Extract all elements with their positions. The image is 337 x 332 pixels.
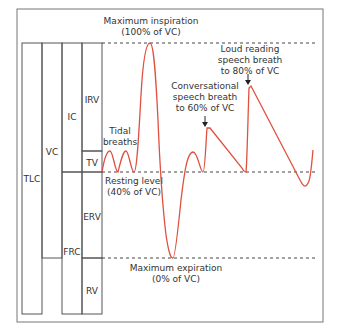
ic-label: IC bbox=[68, 112, 77, 122]
ic-box bbox=[62, 43, 82, 172]
resting-level-label-line2: (40% of VC) bbox=[107, 187, 161, 197]
max-expiration-label-line1: Maximum expiration bbox=[130, 263, 223, 273]
irv-label: IRV bbox=[85, 95, 100, 105]
arrow-down-icon bbox=[202, 122, 208, 127]
erv-label: ERV bbox=[83, 212, 101, 222]
tidal-label-line1: Tidal bbox=[108, 126, 130, 136]
tidal-label-line2: breaths bbox=[103, 137, 138, 147]
conversational-label-line2: speech breath bbox=[173, 92, 238, 102]
arrow-down-icon bbox=[245, 80, 251, 85]
max-expiration-label-line2: (0% of VC) bbox=[152, 274, 200, 284]
lung-volume-diagram: TLC VC IC FRC IRV TV ERV RV Maximum insp… bbox=[0, 0, 337, 332]
loud-label-line1: Loud reading bbox=[221, 44, 280, 54]
conversational-label-line1: Conversational bbox=[171, 81, 239, 91]
conversational-label-line3: to 60% of VC bbox=[176, 103, 235, 113]
resting-level-label-line1: Resting level bbox=[105, 176, 163, 186]
frc-box bbox=[62, 172, 82, 314]
loud-label-line2: speech breath bbox=[218, 55, 283, 65]
vc-label: VC bbox=[46, 147, 58, 157]
breathing-curve bbox=[102, 43, 313, 258]
max-inspiration-label-line1: Maximum inspiration bbox=[104, 16, 199, 26]
level-lines bbox=[102, 43, 318, 258]
loud-label-line3: to 80% of VC bbox=[221, 66, 280, 76]
rv-label: RV bbox=[86, 286, 99, 296]
tv-label: TV bbox=[85, 158, 98, 168]
tlc-label: TLC bbox=[23, 174, 41, 184]
max-inspiration-label-line2: (100% of VC) bbox=[121, 27, 181, 37]
frc-label: FRC bbox=[63, 247, 80, 257]
